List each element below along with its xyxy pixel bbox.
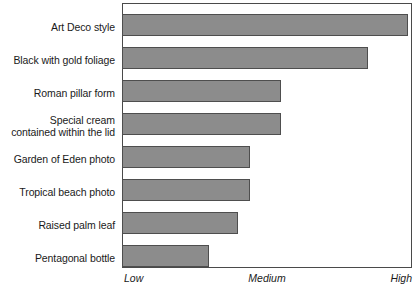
- category-label-black-with-gold-foliage: Black with gold foliage: [0, 55, 115, 67]
- category-axis: Art Deco style Black with gold foliage R…: [0, 3, 119, 268]
- category-label-raised-palm-leaf: Raised palm leaf: [0, 220, 115, 232]
- bar-tropical-beach-photo: [122, 179, 250, 201]
- category-label-special-cream-within-the-lid: Special cream contained within the lid: [0, 115, 115, 138]
- bar-raised-palm-leaf: [122, 212, 238, 234]
- x-tick-label-medium: Medium: [248, 272, 285, 285]
- bar-garden-of-eden-photo: [122, 146, 250, 168]
- bars-layer: [123, 4, 411, 267]
- plot-area: [122, 3, 412, 268]
- category-label-art-deco-style: Art Deco style: [0, 22, 115, 34]
- bar-roman-pillar-form: [122, 80, 281, 102]
- bar-special-cream-within-the-lid: [122, 113, 281, 135]
- category-label-tropical-beach-photo: Tropical beach photo: [0, 187, 115, 199]
- category-label-pentagonal-bottle: Pentagonal bottle: [0, 253, 115, 265]
- x-tick-label-high: High: [390, 272, 412, 285]
- bar-black-with-gold-foliage: [122, 47, 368, 69]
- x-tick-label-low: Low: [124, 272, 143, 285]
- bar-pentagonal-bottle: [122, 245, 209, 267]
- value-axis: Low Medium High: [122, 272, 412, 292]
- bar-chart: Art Deco style Black with gold foliage R…: [0, 0, 417, 301]
- category-label-roman-pillar-form: Roman pillar form: [0, 88, 115, 100]
- bar-art-deco-style: [122, 14, 408, 36]
- category-label-garden-of-eden-photo: Garden of Eden photo: [0, 154, 115, 166]
